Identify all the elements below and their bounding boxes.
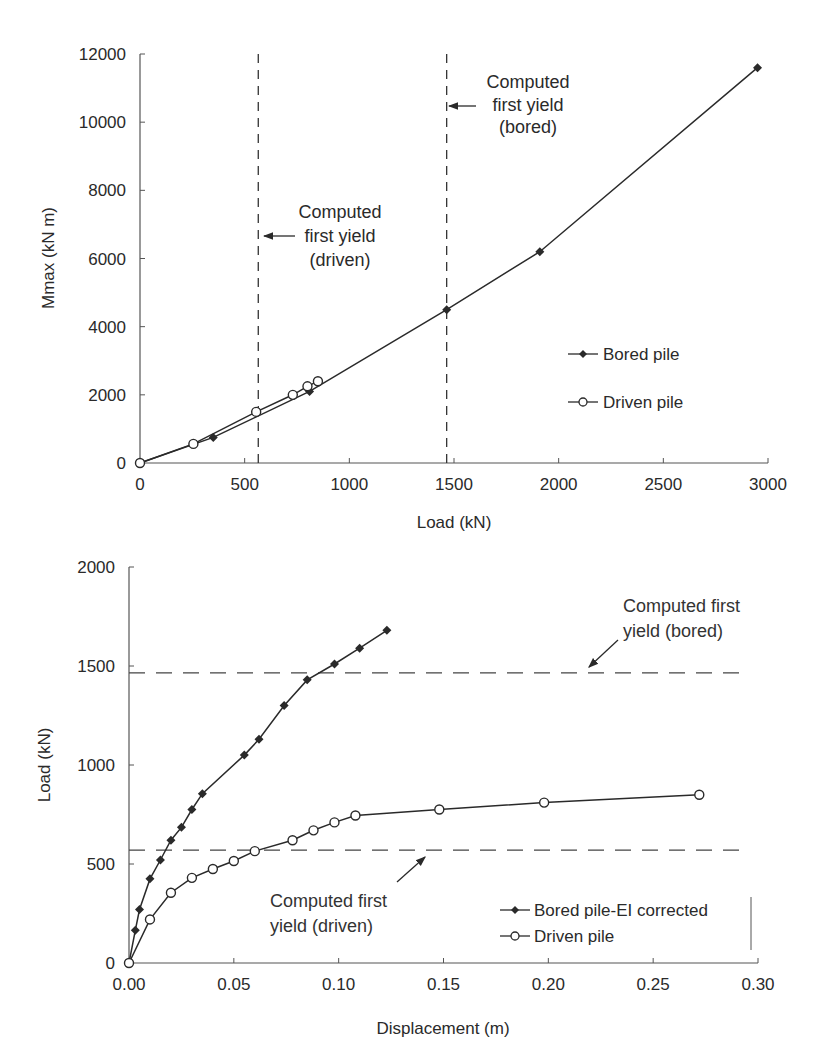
- open-circle-icon: [511, 932, 519, 940]
- series-driven-pile: [125, 790, 704, 967]
- y-tick-label: 8000: [88, 181, 126, 200]
- top-y-axis-title: Mmax (kN m): [39, 207, 58, 309]
- data-point: [136, 459, 145, 468]
- legend-item-driven-pile: Driven pile: [568, 393, 683, 412]
- data-point: [229, 857, 238, 866]
- svg-text:yield (driven): yield (driven): [270, 916, 373, 936]
- x-tick-label: 0.30: [741, 975, 774, 994]
- legend-item-bored-pile: Bored pile: [568, 345, 680, 364]
- x-tick-label: 2500: [644, 475, 682, 494]
- y-tick-label: 10000: [79, 113, 126, 132]
- data-point: [131, 926, 140, 935]
- svg-text:first yield: first yield: [492, 95, 563, 115]
- data-point: [252, 407, 261, 416]
- x-tick-label: 0.00: [112, 975, 145, 994]
- y-tick-label: 4000: [88, 318, 126, 337]
- figure: 0500100015002000250030000200040006000800…: [0, 0, 817, 1051]
- data-point: [187, 873, 196, 882]
- data-point: [166, 888, 175, 897]
- x-tick-label: 0.05: [217, 975, 250, 994]
- bottom-legend: Bored pile-EI corrected Driven pile: [500, 897, 751, 950]
- data-point: [303, 382, 312, 391]
- data-point: [382, 626, 391, 635]
- bottom-annotation-bored: Computed first yield (bored): [589, 596, 740, 667]
- x-tick-label: 0.25: [637, 975, 670, 994]
- filled-diamond-icon: [579, 350, 587, 358]
- svg-text:Computed: Computed: [298, 202, 381, 222]
- svg-text:Driven pile: Driven pile: [534, 927, 614, 946]
- data-point: [355, 644, 364, 653]
- data-point: [435, 805, 444, 814]
- data-point: [695, 790, 704, 799]
- data-point: [189, 439, 198, 448]
- legend-item-driven-pile: Driven pile: [500, 927, 614, 946]
- top-x-axis-title: Load (kN): [417, 513, 492, 532]
- x-tick-label: 1500: [435, 475, 473, 494]
- bottom-chart-load-vs-displacement: 0.000.050.100.150.200.250.30050010001500…: [35, 558, 775, 1038]
- y-tick-label: 12000: [79, 45, 126, 64]
- x-tick-label: 0: [135, 475, 144, 494]
- top-annotation-bored: Computed first yield (bored): [449, 72, 570, 137]
- svg-text:Computed first: Computed first: [623, 596, 740, 616]
- y-tick-label: 500: [87, 855, 115, 874]
- y-tick-label: 1500: [77, 657, 115, 676]
- x-tick-label: 2000: [540, 475, 578, 494]
- svg-text:Bored pile-EI corrected: Bored pile-EI corrected: [534, 901, 708, 920]
- top-tick-labels: 0500100015002000250030000200040006000800…: [79, 45, 787, 494]
- y-tick-label: 2000: [77, 558, 115, 577]
- data-point: [250, 847, 259, 856]
- y-tick-label: 6000: [88, 250, 126, 269]
- x-tick-label: 0.20: [532, 975, 565, 994]
- svg-text:Computed: Computed: [486, 72, 569, 92]
- y-tick-label: 0: [106, 954, 115, 973]
- x-tick-label: 0.15: [427, 975, 460, 994]
- svg-text:yield (bored): yield (bored): [623, 621, 723, 641]
- data-point: [309, 826, 318, 835]
- x-tick-label: 0.10: [322, 975, 355, 994]
- series-driven-pile: [136, 377, 323, 468]
- bottom-yield-lines: [129, 673, 742, 850]
- y-tick-label: 2000: [88, 386, 126, 405]
- svg-text:(bored): (bored): [499, 117, 557, 137]
- svg-text:Bored pile: Bored pile: [603, 345, 680, 364]
- data-point: [313, 377, 322, 386]
- bottom-y-axis-title: Load (kN): [35, 728, 54, 803]
- open-circle-icon: [579, 398, 587, 406]
- arrow-icon: [397, 857, 425, 882]
- data-point: [330, 818, 339, 827]
- x-tick-label: 1000: [330, 475, 368, 494]
- filled-diamond-icon: [511, 906, 519, 914]
- y-tick-label: 0: [117, 454, 126, 473]
- svg-text:(driven): (driven): [309, 250, 370, 270]
- data-point: [351, 811, 360, 820]
- data-point: [330, 660, 339, 669]
- bottom-x-axis-title: Displacement (m): [376, 1019, 509, 1038]
- data-point: [208, 864, 217, 873]
- data-point: [145, 874, 154, 883]
- x-tick-label: 500: [230, 475, 258, 494]
- data-point: [125, 959, 134, 968]
- top-chart-mmax-vs-load: 0500100015002000250030000200040006000800…: [39, 45, 787, 532]
- data-point: [288, 390, 297, 399]
- data-point: [156, 856, 165, 865]
- data-point: [145, 915, 154, 924]
- data-point: [540, 798, 549, 807]
- data-point: [288, 836, 297, 845]
- svg-text:Driven pile: Driven pile: [603, 393, 683, 412]
- arrow-icon: [589, 640, 618, 667]
- legend-item-bored-pile-ei-corrected: Bored pile-EI corrected: [500, 901, 708, 920]
- top-annotation-driven: Computed first yield (driven): [264, 202, 382, 270]
- svg-text:first yield: first yield: [304, 226, 375, 246]
- y-tick-label: 1000: [77, 756, 115, 775]
- data-point: [442, 305, 451, 314]
- data-point: [135, 905, 144, 914]
- x-tick-label: 3000: [749, 475, 787, 494]
- bottom-annotation-driven: Computed first yield (driven): [270, 857, 425, 936]
- top-legend: Bored pile Driven pile: [568, 345, 683, 412]
- svg-text:Computed first: Computed first: [270, 891, 387, 911]
- data-point: [187, 805, 196, 814]
